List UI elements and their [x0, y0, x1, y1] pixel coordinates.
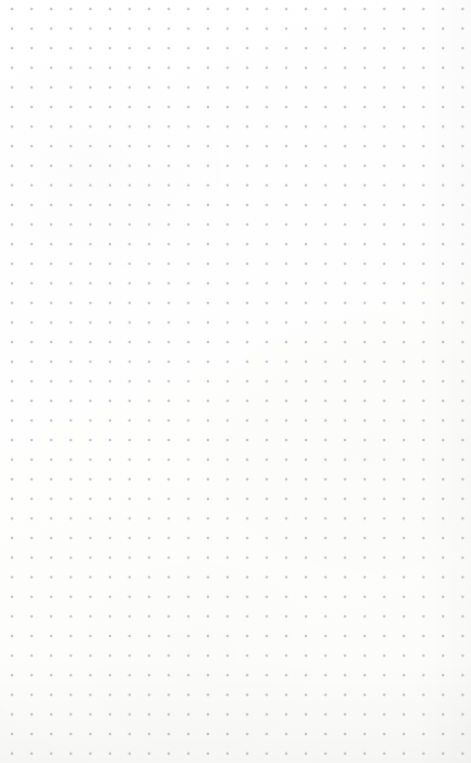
dot-grid-page [0, 0, 471, 763]
dot-grid-pattern [0, 0, 471, 763]
